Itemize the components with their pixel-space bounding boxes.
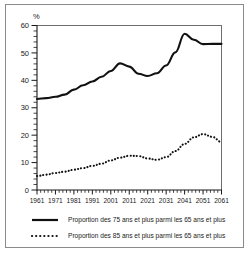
y-tick-label: 30	[21, 103, 29, 112]
y-axis: 0102030405060 %	[21, 12, 40, 195]
x-tick-label: 2001	[103, 197, 118, 204]
legend-label-75-plus: Proportion des 75 ans et plus parmi les …	[68, 216, 226, 224]
series-group	[37, 34, 222, 176]
y-tick-label: 40	[21, 76, 29, 85]
y-tick-label: 60	[21, 21, 29, 30]
x-major-ticks	[37, 190, 222, 195]
x-tick-label: 1961	[30, 197, 45, 204]
y-tick-label: 50	[21, 49, 29, 58]
x-tick-label: 2051	[196, 197, 211, 204]
legend-label-85-plus: Proportion des 85 ans et plus parmi les …	[68, 232, 226, 240]
y-major-ticks	[32, 26, 38, 191]
y-tick-labels: 0102030405060	[21, 21, 29, 195]
series-line-75-plus	[37, 34, 222, 99]
series-line-85-plus	[37, 134, 222, 176]
y-tick-label: 0	[25, 186, 29, 195]
x-tick-label: 2011	[122, 197, 137, 204]
x-tick-label: 2021	[140, 197, 155, 204]
chart-legend: Proportion des 75 ans et plus parmi les …	[32, 216, 226, 240]
y-tick-label: 20	[21, 131, 29, 140]
y-axis-unit-label: %	[33, 12, 40, 21]
x-tick-labels: 1961197119811991200120112021203120412051…	[30, 197, 230, 204]
x-tick-label: 1971	[48, 197, 63, 204]
x-axis: 1961197119811991200120112021203120412051…	[30, 190, 230, 204]
y-tick-label: 10	[21, 158, 29, 167]
chart-figure: 0102030405060 % 196119711981199120012011…	[0, 0, 250, 253]
line-chart: 0102030405060 % 196119711981199120012011…	[0, 0, 250, 253]
x-tick-label: 2041	[177, 197, 192, 204]
x-tick-label: 2061	[214, 197, 229, 204]
plot-frame	[37, 26, 222, 191]
x-tick-label: 1991	[85, 197, 100, 204]
x-tick-label: 1981	[67, 197, 82, 204]
x-tick-label: 2031	[159, 197, 174, 204]
